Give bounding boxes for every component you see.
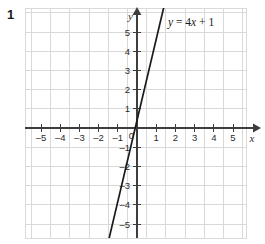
x-axis-label: x <box>249 132 255 144</box>
plot-background <box>25 8 246 238</box>
y-axis-label: y <box>127 10 133 22</box>
y-tick-label: 2 <box>125 84 130 95</box>
y-tick-label: 4 <box>125 46 130 57</box>
equation-operator: = 4 <box>173 16 191 28</box>
x-tick-label: 1 <box>154 132 159 143</box>
y-tick-label: –1 <box>119 142 130 153</box>
x-tick-label: –2 <box>93 132 104 143</box>
y-tick-label: –5 <box>119 219 130 230</box>
x-tick-label: 5 <box>230 132 235 143</box>
x-tick-label: –4 <box>55 132 66 143</box>
coordinate-plane-svg: –5 –4 –3 –2 –1 1 2 3 4 5 5 4 3 2 1 –1 –2… <box>0 0 265 244</box>
coordinate-graph-figure: –5 –4 –3 –2 –1 1 2 3 4 5 5 4 3 2 1 –1 –2… <box>0 0 265 244</box>
y-tick-label: 5 <box>125 27 130 38</box>
x-tick-label: –3 <box>74 132 85 143</box>
y-tick-label: 3 <box>125 65 130 76</box>
y-tick-label: –4 <box>119 199 130 210</box>
x-tick-label: 4 <box>211 132 216 143</box>
x-tick-label: 2 <box>173 132 178 143</box>
x-tick-label: 3 <box>192 132 197 143</box>
equation-annotation: y = 4x + 1 <box>167 16 214 29</box>
x-tick-label: –5 <box>36 132 47 143</box>
y-tick-label: 1 <box>125 103 130 114</box>
equation-constant: + 1 <box>196 16 214 28</box>
worksheet-problem-panel: 1 <box>0 0 265 244</box>
